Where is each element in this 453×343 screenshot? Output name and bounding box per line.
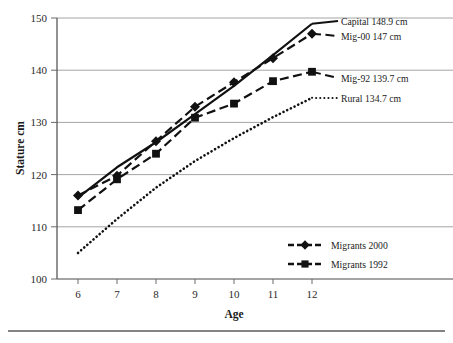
square-marker-icon <box>74 206 82 214</box>
y-tick-label-150: 150 <box>31 12 48 24</box>
square-marker-icon <box>113 175 121 183</box>
x-tick-label-9: 9 <box>192 288 198 300</box>
annotation-mig92: Mig-92 139.7 cm <box>341 73 409 84</box>
square-marker-icon <box>191 114 199 122</box>
y-tick-label-120: 120 <box>31 169 48 181</box>
y-tick-label-140: 140 <box>31 64 48 76</box>
square-marker-icon <box>301 260 308 267</box>
y-tick-label-110: 110 <box>31 221 48 233</box>
legend-label-migrants-2000: Migrants 2000 <box>331 240 388 251</box>
y-axis-title: Stature cm <box>14 121 26 175</box>
annotation-capital: Capital 148.9 cm <box>341 16 408 27</box>
x-tick-label-12: 12 <box>307 288 318 300</box>
x-tick-label-7: 7 <box>114 288 120 300</box>
square-marker-icon <box>269 77 277 85</box>
legend-label-migrants-1992: Migrants 1992 <box>331 259 388 270</box>
x-tick-label-8: 8 <box>153 288 159 300</box>
x-tick-label-11: 11 <box>268 288 279 300</box>
square-marker-icon <box>230 100 238 108</box>
square-marker-icon <box>152 150 160 158</box>
x-axis-title: Age <box>224 308 243 321</box>
annotation-rural: Rural 134.7 cm <box>341 93 401 104</box>
x-tick-label-10: 10 <box>229 288 241 300</box>
y-tick-label-130: 130 <box>31 116 48 128</box>
chart-background <box>0 0 453 343</box>
y-tick-label-100: 100 <box>31 273 48 285</box>
stature-by-age-line-chart: 150 140 130 120 110 100 6 7 8 9 10 11 12… <box>0 0 453 343</box>
chart-figure: 150 140 130 120 110 100 6 7 8 9 10 11 12… <box>0 0 453 343</box>
annotation-mig00: Mig-00 147 cm <box>341 31 402 42</box>
x-tick-label-6: 6 <box>75 288 81 300</box>
